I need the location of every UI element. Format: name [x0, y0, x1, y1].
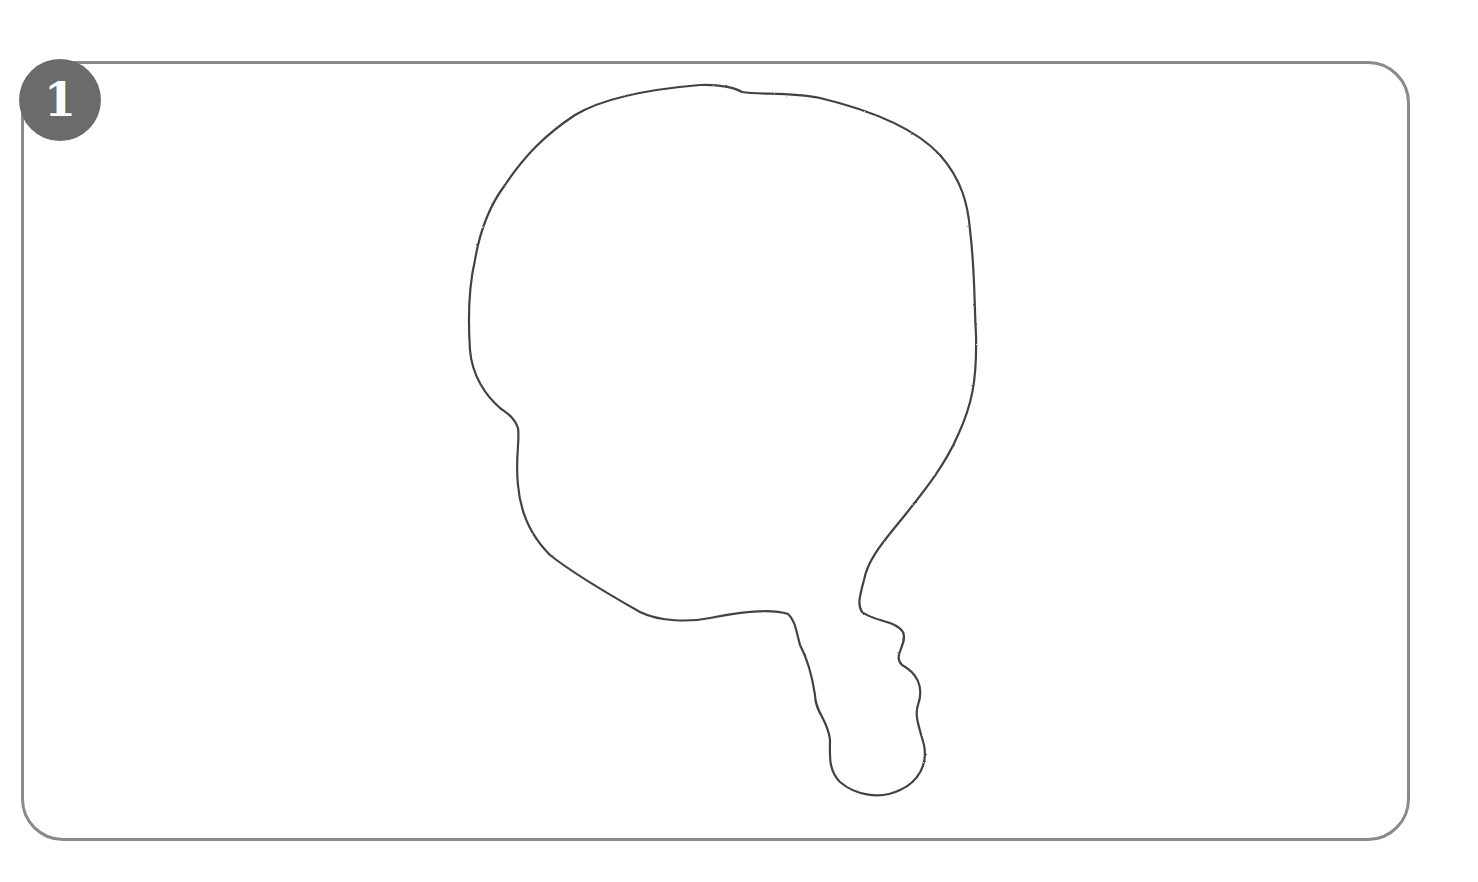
blob-outline [469, 85, 976, 795]
outline-drawing [0, 0, 1478, 882]
